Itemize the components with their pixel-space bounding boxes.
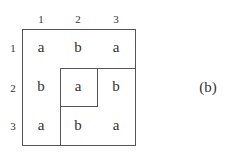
row-label: 2 <box>10 82 16 94</box>
col-label: 2 <box>75 13 81 25</box>
outer-border-bottom <box>22 145 136 146</box>
inner-line <box>60 106 98 107</box>
inner-line <box>60 68 61 146</box>
grid-cell: a <box>38 117 45 134</box>
row-label: 3 <box>10 120 16 132</box>
col-label: 3 <box>113 13 119 25</box>
grid-cell: a <box>38 39 45 56</box>
row-label: 1 <box>10 42 16 54</box>
grid-cell: a <box>113 117 120 134</box>
col-label: 1 <box>38 13 44 25</box>
grid-cell: b <box>74 39 82 56</box>
grid-cell: b <box>37 78 45 95</box>
inner-line <box>60 68 136 69</box>
outer-border-left <box>22 29 23 146</box>
grid-cell: b <box>74 117 82 134</box>
grid-cell: a <box>75 78 82 95</box>
figure-caption: (b) <box>199 79 217 96</box>
grid-cell: a <box>113 39 120 56</box>
outer-border-top <box>22 29 136 30</box>
outer-border-right <box>135 29 136 146</box>
grid-cell: b <box>112 78 120 95</box>
inner-line <box>97 68 98 107</box>
